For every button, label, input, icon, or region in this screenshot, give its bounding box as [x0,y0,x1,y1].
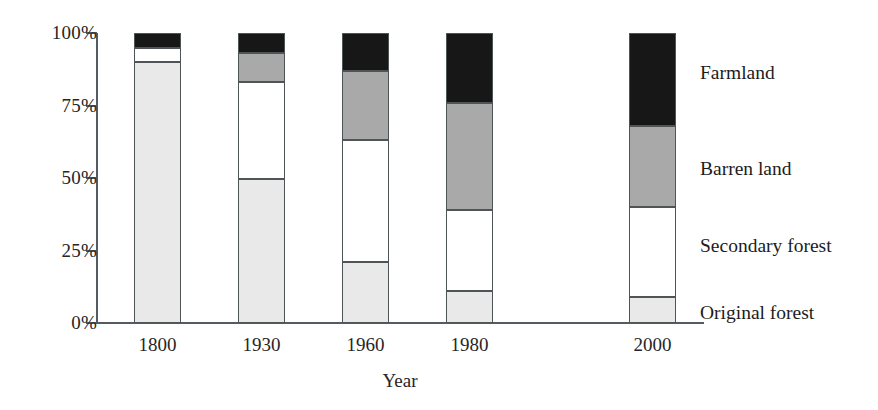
legend-label-farmland: Farmland [700,62,775,84]
bar-segment-secondary-forest [134,48,181,63]
x-tick-label: 1800 [108,334,208,356]
bar-segment-original-forest [238,179,285,323]
legend-label-original-forest: Original forest [700,302,814,324]
y-tick-label: 75% [27,96,97,115]
x-axis-line [96,322,704,324]
y-tick-label: 25% [27,241,97,260]
bar-2000 [629,33,676,323]
x-tick-label: 1980 [420,334,520,356]
bar-segment-secondary-forest [238,82,285,179]
bar-segment-original-forest [134,62,181,323]
bar-1800 [134,33,181,323]
bar-segment-original-forest [629,297,676,323]
bar-1930 [238,33,285,323]
bar-segment-barren-land [629,126,676,207]
bar-segment-secondary-forest [446,210,493,291]
x-tick-label: 1930 [212,334,312,356]
stacked-bar-chart: 0%25%50%75%100% 18001930196019802000 Yea… [0,0,878,410]
y-tick-label: 0% [27,313,97,332]
bar-segment-farmland [629,33,676,126]
y-tick-label: 50% [27,168,97,187]
bar-segment-farmland [446,33,493,103]
x-tick-label: 1960 [316,334,416,356]
bar-segment-farmland [342,33,389,71]
bar-segment-secondary-forest [629,207,676,297]
bar-segment-original-forest [342,262,389,323]
bar-segment-secondary-forest [342,140,389,262]
x-tick-label: 2000 [603,334,703,356]
legend-label-secondary-forest: Secondary forest [700,235,832,257]
bar-1980 [446,33,493,323]
bar-segment-farmland [134,33,181,48]
x-axis-title: Year [96,370,704,392]
bar-segment-barren-land [446,103,493,210]
bar-segment-barren-land [238,53,285,82]
bar-1960 [342,33,389,323]
y-tick-label: 100% [27,23,97,42]
bar-segment-farmland [238,33,285,53]
legend-label-barren-land: Barren land [700,158,792,180]
bar-segment-barren-land [342,71,389,141]
bar-segment-original-forest [446,291,493,323]
